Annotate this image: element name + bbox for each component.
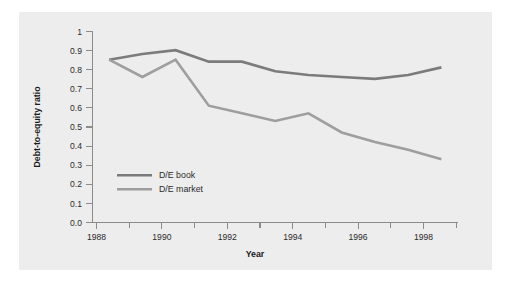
y-tick-label: 0.8 bbox=[70, 65, 82, 75]
y-tick-label: 0.7 bbox=[70, 84, 82, 94]
legend-label-de-market: D/E market bbox=[159, 184, 204, 194]
x-tick-label: 1998 bbox=[414, 232, 433, 242]
x-tick-label: 1988 bbox=[87, 232, 106, 242]
y-tick-label: 0.5 bbox=[70, 122, 82, 132]
x-tick-label: 1992 bbox=[218, 232, 237, 242]
chart-canvas: 1 0.9 0.8 0.7 0.6 0.5 0.4 0.3 0.2 0.1 0.… bbox=[0, 0, 511, 285]
y-tick-label: 0.3 bbox=[70, 160, 82, 170]
x-axis-tick-labels: 1988 1990 1992 1994 1996 1998 bbox=[87, 232, 433, 242]
x-tick-label: 1994 bbox=[283, 232, 302, 242]
y-tick-label: 0.4 bbox=[70, 141, 82, 151]
y-axis-tick-labels: 1 0.9 0.8 0.7 0.6 0.5 0.4 0.3 0.2 0.1 0.… bbox=[70, 27, 82, 228]
series-line-de-market bbox=[109, 60, 441, 160]
y-tick-label: 0.6 bbox=[70, 103, 82, 113]
legend-label-de-book: D/E book bbox=[159, 170, 196, 180]
y-axis-ticks bbox=[86, 32, 93, 223]
x-tick-label: 1996 bbox=[349, 232, 368, 242]
chart-legend: D/E book D/E market bbox=[117, 170, 204, 194]
x-axis-title: Year bbox=[246, 249, 265, 259]
y-axis-title: Debt-to-equity ratio bbox=[32, 86, 42, 168]
y-tick-label: 0.9 bbox=[70, 46, 82, 56]
y-tick-label: 0.1 bbox=[70, 199, 82, 209]
x-tick-label: 1990 bbox=[152, 232, 171, 242]
y-tick-label: 0.2 bbox=[70, 179, 82, 189]
chart-figure: 1 0.9 0.8 0.7 0.6 0.5 0.4 0.3 0.2 0.1 0.… bbox=[0, 0, 511, 285]
y-tick-label: 0.0 bbox=[70, 218, 82, 228]
y-tick-label: 1 bbox=[77, 27, 82, 37]
series-line-de-book bbox=[109, 50, 441, 79]
